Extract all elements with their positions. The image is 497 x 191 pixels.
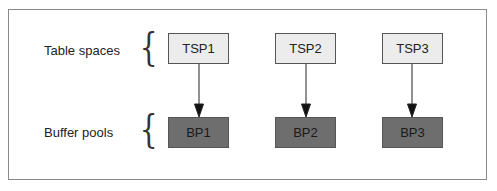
arrow-head-icon <box>195 104 204 117</box>
arrow-head-icon <box>302 104 311 117</box>
connector-arrows <box>0 0 497 191</box>
arrow-head-icon <box>408 104 417 117</box>
